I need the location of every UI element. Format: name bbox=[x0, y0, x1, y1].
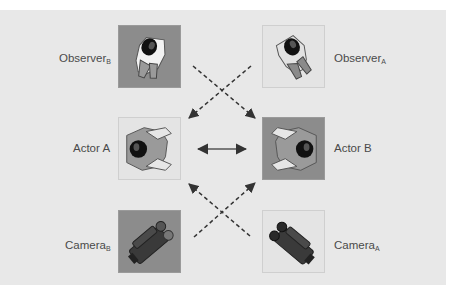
camera-a-box bbox=[262, 210, 325, 273]
person-top-view-icon bbox=[263, 26, 324, 87]
label-camera-a: CameraA bbox=[334, 239, 380, 252]
person-top-view-icon bbox=[119, 118, 180, 179]
label-observer-b: ObserverB bbox=[59, 52, 111, 65]
video-camera-icon bbox=[119, 211, 180, 272]
label-actor-b: Actor B bbox=[334, 142, 372, 154]
observer-b-box bbox=[118, 25, 181, 88]
camera-b-box bbox=[118, 210, 181, 273]
actor-a-box bbox=[118, 117, 181, 180]
person-top-view-icon bbox=[263, 118, 324, 179]
observer-a-box bbox=[262, 25, 325, 88]
person-top-view-icon bbox=[119, 26, 180, 87]
label-actor-a: Actor A bbox=[73, 142, 110, 154]
label-camera-b: CameraB bbox=[65, 239, 111, 252]
video-camera-icon bbox=[263, 211, 324, 272]
actor-b-box bbox=[262, 117, 325, 180]
label-observer-a: ObserverA bbox=[334, 52, 386, 65]
